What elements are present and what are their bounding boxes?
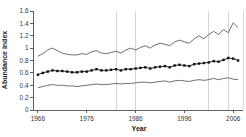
x-tick-label: 1996 xyxy=(177,115,192,122)
data-point-marker xyxy=(139,67,141,69)
data-point-marker xyxy=(159,66,161,68)
data-point-marker xyxy=(71,71,73,73)
y-tick-label: 1.4 xyxy=(20,20,29,27)
y-tick-label: 0.2 xyxy=(20,94,29,101)
data-point-marker xyxy=(222,59,224,61)
data-point-marker xyxy=(95,68,97,70)
data-point-marker xyxy=(51,69,53,71)
data-point-marker xyxy=(134,67,136,69)
data-point-marker xyxy=(203,62,205,64)
data-point-marker xyxy=(56,70,58,72)
data-point-marker xyxy=(105,69,107,71)
data-point-marker xyxy=(115,68,117,70)
y-axis-title: Abundance index xyxy=(1,31,8,89)
data-point-marker xyxy=(47,70,49,72)
x-tick-label: 1976 xyxy=(80,115,95,122)
y-tick-label: 0.4 xyxy=(20,82,29,89)
x-tick-label: 1966 xyxy=(31,115,46,122)
data-point-marker xyxy=(198,62,200,64)
data-point-marker xyxy=(213,60,215,62)
data-point-marker xyxy=(66,70,68,72)
data-point-marker xyxy=(144,66,146,68)
data-point-marker xyxy=(188,65,190,67)
data-point-marker xyxy=(130,68,132,70)
data-point-marker xyxy=(154,66,156,68)
data-point-marker xyxy=(110,69,112,71)
data-point-marker xyxy=(227,57,229,59)
data-point-marker xyxy=(81,70,83,72)
data-point-marker xyxy=(237,59,239,61)
abundance-index-chart: 00.20.40.60.811.21.41.619661976198619962… xyxy=(0,0,246,137)
chart-canvas: 00.20.40.60.811.21.41.619661976198619962… xyxy=(0,0,246,137)
data-point-marker xyxy=(37,74,39,76)
data-point-marker xyxy=(164,65,166,67)
y-tick-label: 1.2 xyxy=(20,32,29,39)
data-point-marker xyxy=(232,57,234,59)
data-point-marker xyxy=(120,69,122,71)
y-tick-label: 1.6 xyxy=(20,7,29,14)
data-point-marker xyxy=(86,70,88,72)
data-point-marker xyxy=(125,68,127,70)
data-point-marker xyxy=(42,72,44,74)
data-point-marker xyxy=(169,66,171,68)
data-point-marker xyxy=(193,63,195,65)
y-tick-label: 0.6 xyxy=(20,69,29,76)
data-point-marker xyxy=(61,70,63,72)
data-point-marker xyxy=(173,64,175,66)
y-tick-label: 1 xyxy=(25,44,29,51)
data-point-marker xyxy=(149,67,151,69)
data-point-marker xyxy=(100,69,102,71)
x-axis-title: Year xyxy=(132,125,147,132)
x-tick-label: 1986 xyxy=(128,115,143,122)
data-point-marker xyxy=(208,61,210,63)
x-tick-label: 2006 xyxy=(226,115,241,122)
data-point-marker xyxy=(76,71,78,73)
y-tick-label: 0.8 xyxy=(20,57,29,64)
data-point-marker xyxy=(178,64,180,66)
data-point-marker xyxy=(183,64,185,66)
data-point-marker xyxy=(90,69,92,71)
data-point-marker xyxy=(217,61,219,63)
series-lower-confidence-limit xyxy=(38,78,238,88)
y-tick-label: 0 xyxy=(25,106,29,113)
series-upper-confidence-limit xyxy=(38,23,238,56)
